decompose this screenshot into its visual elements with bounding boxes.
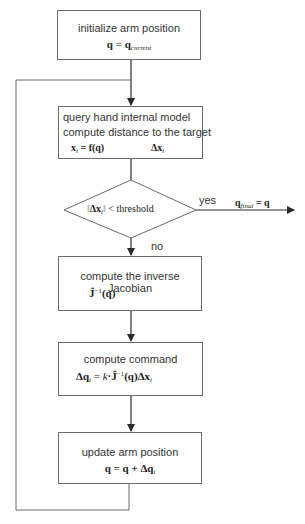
node-query-label-2: compute distance to the target	[63, 126, 211, 138]
edge-yes-label: yes	[199, 194, 216, 206]
flowchart: initialize arm position q = qcurrent que…	[0, 0, 305, 524]
node-initialize-label: initialize arm position	[58, 22, 200, 34]
node-initialize-formula: q = qcurrent	[58, 38, 200, 52]
node-query-model: query hand internal model compute distan…	[58, 106, 203, 159]
node-query-label-1: query hand internal model	[63, 111, 190, 123]
node-inverse-jacobian: compute the inverse Jacobian Ĵ−1(q)	[58, 256, 202, 311]
node-query-formula-right: Δxi	[151, 142, 164, 155]
node-initialize: initialize arm position q = qcurrent	[57, 10, 201, 60]
edge-no-label: no	[151, 240, 163, 252]
decision-condition: ‖Δxi‖ < threshold	[87, 203, 154, 216]
node-update-label: update arm position	[59, 446, 201, 458]
node-update-position: update arm position q = q + Δqi	[58, 432, 202, 484]
node-compute-command: compute command Δqi = k·Ĵ−1(q)Δxi	[58, 342, 203, 396]
node-update-formula: q = q + Δqi	[59, 462, 201, 476]
node-jacobian-formula: Ĵ−1(q)	[89, 287, 201, 299]
node-command-formula: Δqi = k·Ĵ−1(q)Δxi	[76, 370, 202, 384]
node-command-label: compute command	[59, 353, 202, 365]
output-formula: qfinal = q	[235, 197, 270, 210]
node-query-formula-left: xi = f(q)	[71, 142, 104, 155]
